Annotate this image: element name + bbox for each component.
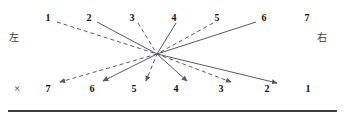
bottom-number-1: 1 [306,84,311,94]
connection-line-5-to-3 [157,23,231,82]
connection-line-1-to-7 [57,22,157,82]
direction-label-right: 右 [317,33,327,43]
bottom-number-3: 3 [219,84,224,94]
top-number-1: 1 [46,13,51,23]
connection-line-6-to-2 [157,22,277,83]
direction-label-left: 左 [9,33,19,43]
top-number-2: 2 [87,13,92,23]
top-number-3: 3 [130,13,135,23]
top-number-7: 7 [305,13,310,23]
cross-mark: × [14,83,20,94]
bottom-number-5: 5 [132,84,137,94]
top-number-5: 5 [215,13,220,23]
top-number-6: 6 [262,13,267,23]
bottom-number-6: 6 [90,84,95,94]
diagram-canvas: 1234567 7654321 左右 × [0,0,345,117]
bottom-number-4: 4 [174,84,179,94]
bottom-number-2: 2 [265,84,270,94]
baseline-rule [8,110,337,112]
connection-line-2-to-6 [97,22,157,81]
bottom-number-7: 7 [46,84,51,94]
connection-lines [57,22,277,83]
top-number-4: 4 [172,13,177,23]
